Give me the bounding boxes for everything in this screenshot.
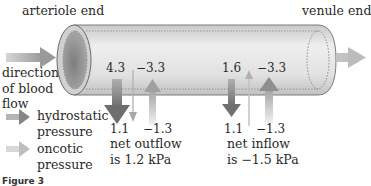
venule-net-line2: is −1.5 kPa (227, 154, 299, 167)
legend-hydrostatic-line1: hydrostatic (37, 110, 109, 123)
oncotic-legend-arrow (6, 141, 30, 157)
direction-label-line2: of blood (2, 83, 53, 96)
arteriole-capillary-hydrostatic-value: 4.3 (106, 62, 125, 74)
legend-hydrostatic-line2: pressure (37, 126, 93, 139)
legend-oncotic-line2: pressure (37, 159, 93, 172)
venule-tissue-oncotic-value: −1.3 (256, 123, 285, 135)
arteriole-tissue-oncotic-value: −1.3 (143, 123, 172, 135)
venule-net-line1: net inflow (227, 138, 290, 151)
arteriole-net-line2: is 1.2 kPa (110, 154, 171, 167)
direction-label-line3: flow (2, 98, 29, 111)
legend-oncotic-line1: oncotic (37, 143, 83, 156)
arteriole-net-line1: net outflow (110, 138, 182, 151)
venule-end-label: venule end (302, 5, 371, 18)
venule-tissue-hydrostatic-arrow (245, 70, 253, 126)
hydrostatic-legend-arrow (6, 109, 30, 125)
venule-tissue-hydrostatic-value: 1.1 (224, 123, 243, 135)
arteriole-tissue-hydrostatic-value: 1.1 (110, 123, 129, 135)
venule-capillary-oncotic-value: −3.3 (257, 62, 286, 74)
arteriole-end-label: arteriole end (22, 5, 104, 18)
direction-label-line1: direction (2, 67, 59, 80)
venule-capillary-hydrostatic-value: 1.6 (222, 62, 241, 74)
arteriole-capillary-oncotic-value: −3.3 (136, 62, 165, 74)
blood-flow-out-arrow (336, 47, 366, 68)
figure-caption: Figure 3 (2, 176, 44, 186)
capillary-tube (57, 25, 336, 95)
